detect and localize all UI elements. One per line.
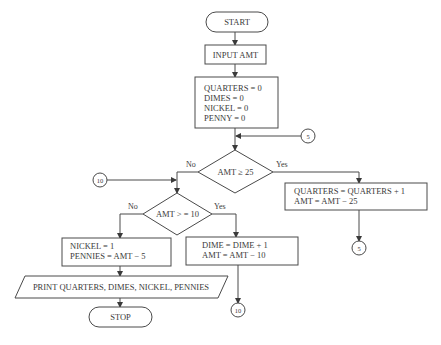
init-line-quarters: QUARTERS = 0 [204, 83, 262, 93]
stop-terminal: STOP [89, 307, 152, 327]
input-process-box: INPUT AMT [205, 45, 266, 64]
init-line-penny: PENNY = 0 [204, 113, 245, 123]
connector-10-exit-label: 10 [235, 307, 242, 314]
decision-quarters-no-label: No [186, 160, 196, 169]
arrow-yes-quarters [273, 172, 359, 183]
connector-10-entry: 10 [93, 173, 107, 187]
decision-amt-ge-25: AMT ≥ 25 [198, 150, 273, 193]
nickel-line-2: PENNIES = AMT − 5 [70, 251, 146, 261]
dime-process-box: DIME = DIME + 1 AMT = AMT − 10 [186, 237, 298, 265]
print-output-box: PRINT QUARTERS, DIMES, NICKEL, PENNIES [15, 276, 228, 298]
quarters-line-2: AMT = AMT − 25 [294, 196, 358, 206]
flowchart-canvas: START INPUT AMT QUARTERS = 0 DIMES = 0 N… [0, 0, 441, 345]
init-process-box: QUARTERS = 0 DIMES = 0 NICKEL = 0 PENNY … [195, 77, 278, 128]
dime-line-1: DIME = DIME + 1 [202, 240, 268, 250]
nickel-line-1: NICKEL = 1 [70, 241, 114, 251]
connector-10-exit: 10 [231, 303, 245, 317]
decision-dimes-yes-label: Yes [214, 202, 226, 211]
decision-amt-ge-10: AMT > = 10 [143, 193, 212, 235]
print-label: PRINT QUARTERS, DIMES, NICKEL, PENNIES [33, 282, 209, 292]
decision-dimes-label: AMT > = 10 [156, 209, 199, 219]
input-label: INPUT AMT [213, 50, 259, 60]
quarters-line-1: QUARTERS = QUARTERS + 1 [294, 186, 405, 196]
connector-5-exit: 5 [352, 241, 366, 255]
init-line-nickel: NICKEL = 0 [204, 103, 248, 113]
nickel-process-box: NICKEL = 1 PENNIES = AMT − 5 [62, 238, 171, 266]
arrow-yes-dime [212, 214, 236, 237]
connector-5-entry-label: 5 [306, 133, 309, 140]
start-terminal: START [206, 12, 268, 32]
stop-label: STOP [110, 312, 131, 322]
arrow-no-decision-dimes [177, 172, 198, 193]
decision-dimes-no-label: No [128, 202, 138, 211]
quarters-process-box: QUARTERS = QUARTERS + 1 AMT = AMT − 25 [285, 183, 427, 210]
connector-10-entry-label: 10 [97, 177, 104, 184]
connector-5-entry: 5 [301, 129, 315, 143]
arrow-no-nickel [120, 214, 143, 238]
dime-line-2: AMT = AMT − 10 [202, 250, 266, 260]
init-line-dimes: DIMES = 0 [204, 93, 244, 103]
decision-quarters-yes-label: Yes [276, 160, 288, 169]
decision-quarters-label: AMT ≥ 25 [217, 167, 253, 177]
connector-5-exit-label: 5 [357, 245, 360, 252]
start-label: START [224, 17, 251, 27]
